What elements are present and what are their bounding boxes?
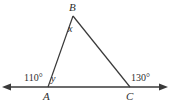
angle-label-x: x [68,24,72,34]
geometry-canvas [0,0,170,105]
vertex-label-a: A [43,91,50,102]
exterior-angle-label-right: 130° [131,73,150,83]
left-arrowhead-icon [2,83,11,90]
right-arrowhead-icon [159,83,168,90]
side-bc [73,16,130,87]
vertex-label-c: C [126,91,133,102]
exterior-angle-label-left: 110° [24,73,43,83]
angle-label-y: y [51,74,55,84]
geometry-figure: B A C x y 110° 130° [0,0,170,105]
vertex-label-b: B [69,2,76,13]
